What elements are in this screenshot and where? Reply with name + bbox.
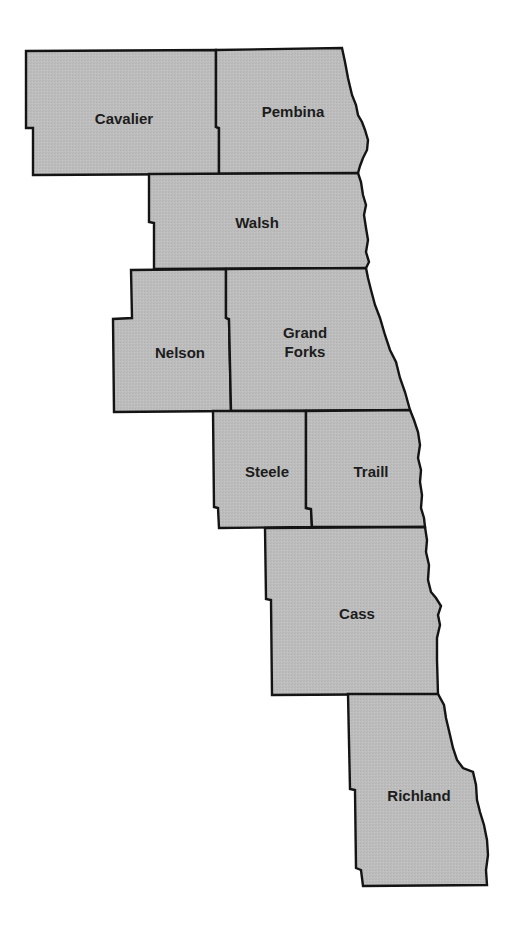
county-map: Cavalier Pembina Walsh Nelson Grand Fork… bbox=[0, 0, 519, 935]
county-nelson-label: Nelson bbox=[155, 344, 205, 361]
county-grand-forks-label-line1: Grand bbox=[283, 324, 327, 341]
county-cavalier[interactable]: Cavalier bbox=[26, 50, 219, 175]
county-richland-label: Richland bbox=[387, 787, 450, 804]
county-cass-label: Cass bbox=[339, 605, 375, 622]
county-nelson[interactable]: Nelson bbox=[113, 269, 231, 412]
county-cass[interactable]: Cass bbox=[265, 527, 441, 695]
county-richland[interactable]: Richland bbox=[348, 694, 488, 886]
county-traill[interactable]: Traill bbox=[306, 410, 425, 527]
county-traill-label: Traill bbox=[353, 463, 388, 480]
county-walsh-label: Walsh bbox=[235, 214, 279, 231]
county-pembina-label: Pembina bbox=[262, 103, 325, 120]
county-steele-label: Steele bbox=[245, 463, 289, 480]
county-grand-forks-label-line2: Forks bbox=[285, 343, 326, 360]
county-steele[interactable]: Steele bbox=[213, 411, 312, 528]
county-nelson-shape[interactable] bbox=[113, 269, 231, 412]
county-grand-forks[interactable]: Grand Forks bbox=[226, 268, 410, 411]
county-walsh[interactable]: Walsh bbox=[149, 173, 369, 269]
county-pembina[interactable]: Pembina bbox=[216, 48, 368, 174]
county-cavalier-label: Cavalier bbox=[95, 110, 154, 127]
